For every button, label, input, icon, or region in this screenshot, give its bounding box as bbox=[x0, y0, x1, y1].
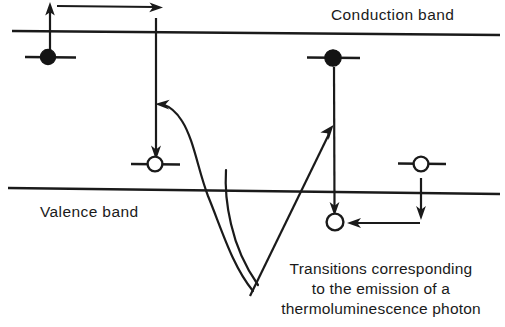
electron-recombination-down-arrow-shaft bbox=[334, 67, 335, 208]
caption-pointer-to-recombination-curve bbox=[226, 170, 258, 285]
hole-recombination-site-circle bbox=[327, 214, 344, 231]
caption-line-3: thermoluminescence photon bbox=[281, 300, 481, 317]
caption-pointer-to-capture-curve bbox=[162, 104, 253, 291]
caption-pointer-to-capture-arrow-head bbox=[155, 100, 170, 110]
conduction-band-line bbox=[12, 31, 500, 35]
diagram-canvas: Conduction band Valence band Transitions… bbox=[0, 0, 505, 327]
valence-band-label: Valence band bbox=[40, 203, 138, 220]
trapped-electron-right-dot bbox=[325, 50, 341, 66]
conduction-drift-arrow-shaft bbox=[57, 6, 155, 7]
caption-line-2: to the emission of a bbox=[312, 280, 451, 297]
hole-center-circle bbox=[148, 157, 163, 172]
trapped-electron-left-dot bbox=[40, 49, 55, 64]
valence-band-line bbox=[8, 188, 500, 194]
thermoluminescence-band-diagram: Conduction band Valence band Transitions… bbox=[0, 0, 505, 327]
hole-right-circle bbox=[414, 157, 429, 172]
caption-line-1: Transitions corresponding bbox=[290, 260, 473, 277]
conduction-band-label: Conduction band bbox=[331, 6, 454, 23]
